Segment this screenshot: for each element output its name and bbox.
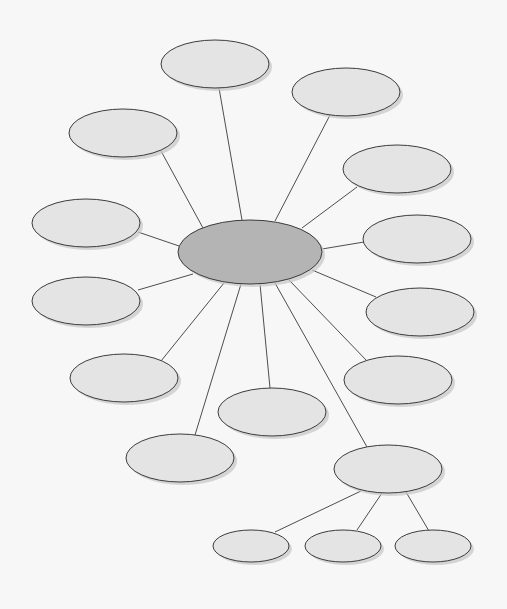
node-bottom-right[interactable] [334,445,442,493]
connector-line [289,280,367,361]
node-ellipse[interactable] [334,445,442,493]
node-ellipse[interactable] [161,40,269,88]
node-bottom-center[interactable] [218,388,326,436]
node-top[interactable] [161,40,269,88]
node-top-right[interactable] [292,68,400,116]
node-child-3[interactable] [395,530,471,562]
connector-line [312,270,376,297]
diagram-nodes [32,40,474,562]
node-lower-right[interactable] [344,356,452,404]
node-right-mid-upper[interactable] [363,215,471,263]
connector-line [302,187,357,228]
node-ellipse[interactable] [32,277,140,325]
node-ellipse[interactable] [292,68,400,116]
central-node[interactable] [178,220,322,284]
node-right-mid-lower[interactable] [366,288,474,336]
node-ellipse[interactable] [343,145,451,193]
connector-line [357,493,382,530]
connector-line [275,115,330,221]
mind-map-diagram [0,0,507,609]
node-child-1[interactable] [213,530,289,562]
node-ellipse[interactable] [363,215,471,263]
node-ellipse[interactable] [32,199,140,247]
connector-line [161,151,203,228]
node-left-mid-lower[interactable] [32,277,140,325]
connector-line [161,283,224,361]
node-ellipse[interactable] [344,356,452,404]
node-bottom-left[interactable] [126,434,234,482]
connector-line [260,284,270,388]
node-ellipse[interactable] [218,388,326,436]
node-left-mid-upper[interactable] [32,199,140,247]
node-ellipse[interactable] [70,354,178,402]
node-ellipse[interactable] [395,530,471,562]
node-left-upper[interactable] [69,109,177,157]
connector-line [322,242,364,249]
node-ellipse[interactable] [126,434,234,482]
node-right-upper[interactable] [343,145,451,193]
node-child-2[interactable] [305,530,381,562]
node-lower-left[interactable] [70,354,178,402]
connector-line [275,491,361,532]
node-ellipse[interactable] [366,288,474,336]
connector-line [138,274,193,290]
connector-line [219,88,242,220]
node-ellipse[interactable] [305,530,381,562]
connector-line [406,492,429,531]
node-ellipse[interactable] [213,530,289,562]
node-ellipse[interactable] [69,109,177,157]
connector-line [138,232,179,246]
node-ellipse[interactable] [178,220,322,284]
